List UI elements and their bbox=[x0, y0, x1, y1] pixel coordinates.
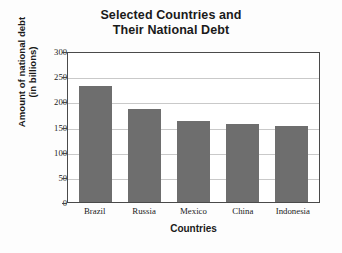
y-axis-tick-mark bbox=[62, 52, 67, 53]
y-axis-tick-mark bbox=[62, 77, 67, 78]
x-axis-tick-label: Mexico bbox=[177, 206, 210, 216]
x-axis-tick-labels: BrazilRussiaMexicoChinaIndonesia bbox=[67, 206, 320, 216]
chart-title-line-2: Their National Debt bbox=[0, 23, 342, 38]
chart-figure: Selected Countries and Their National De… bbox=[0, 0, 342, 253]
y-axis-tick-label: 150 bbox=[27, 123, 67, 133]
x-axis-tick-label: Russia bbox=[128, 206, 161, 216]
plot-area bbox=[67, 52, 320, 203]
bar bbox=[177, 121, 210, 202]
y-axis-tick-mark bbox=[62, 203, 67, 204]
y-axis-title-line-1: Amount of national debt bbox=[16, 17, 28, 127]
bar bbox=[275, 126, 308, 203]
bar bbox=[128, 109, 161, 202]
y-axis-tick-label: 100 bbox=[27, 148, 67, 158]
x-axis-title: Countries bbox=[67, 223, 320, 234]
y-axis-tick-mark bbox=[62, 102, 67, 103]
y-axis-tick-label: 200 bbox=[27, 97, 67, 107]
y-axis-tick-label: 50 bbox=[27, 173, 67, 183]
x-axis-tick-label: China bbox=[226, 206, 259, 216]
bar bbox=[79, 86, 112, 202]
chart-title-line-1: Selected Countries and bbox=[0, 8, 342, 23]
y-axis-tick-label: 250 bbox=[27, 72, 67, 82]
x-axis-tick-label: Brazil bbox=[78, 206, 111, 216]
x-axis-tick-label: Indonesia bbox=[276, 206, 309, 216]
y-axis-tick-mark bbox=[62, 153, 67, 154]
bar bbox=[226, 124, 259, 202]
y-axis-tick-mark bbox=[62, 178, 67, 179]
y-axis-tick-label: 0 bbox=[27, 198, 67, 208]
chart-title: Selected Countries and Their National De… bbox=[0, 8, 342, 38]
y-axis-tick-label: 300 bbox=[27, 47, 67, 57]
y-axis-tick-mark bbox=[62, 128, 67, 129]
bar-series bbox=[68, 53, 319, 202]
